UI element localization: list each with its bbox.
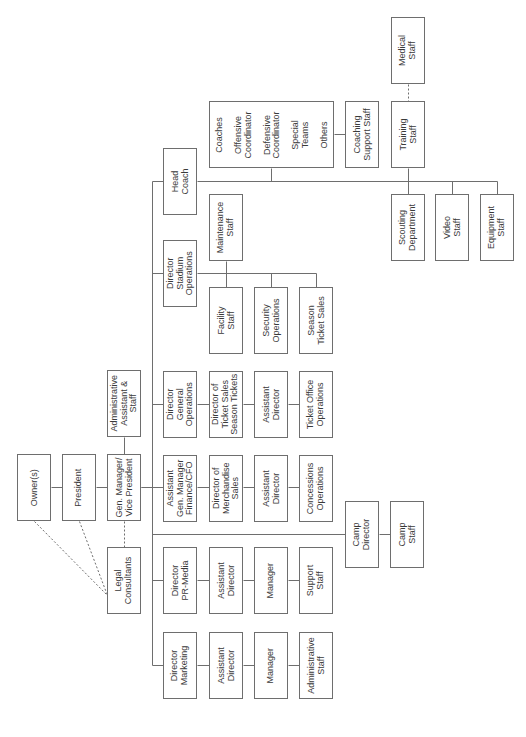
node-label: Facility Staff bbox=[216, 306, 235, 334]
node-label: Concessions Operations bbox=[307, 463, 326, 515]
org-chart-canvas: Owner(s)PresidentGen. Manager/ Vice Pres… bbox=[0, 0, 526, 737]
node-label: Ticket Office Operations bbox=[307, 380, 326, 430]
node-legal: Legal Consultants bbox=[107, 547, 141, 614]
node-asst-dir-merch: Assistant Director bbox=[254, 455, 288, 522]
node-label: Coaching Support Staff bbox=[353, 108, 372, 160]
node-label: Assistant Director bbox=[262, 470, 281, 507]
node-label: Administrative Assistant & Staff bbox=[110, 375, 139, 432]
node-asst-gm: Assistant Gen. Manager Finance/CFO bbox=[163, 455, 197, 522]
node-label: Season Ticket Sales bbox=[307, 296, 326, 345]
node-maintenance: Maintenance Staff bbox=[209, 194, 243, 261]
node-scouting: Scouting Department bbox=[391, 194, 425, 261]
node-admin-staff-marketing: Administrative Staff bbox=[299, 632, 333, 699]
node-label: Medical Staff bbox=[398, 35, 417, 66]
node-label: Owner(s) bbox=[29, 469, 39, 506]
node-label: Director Stadium Operations bbox=[166, 251, 195, 295]
node-dir-stadium: Director Stadium Operations bbox=[163, 240, 197, 307]
node-label: Security Operations bbox=[262, 298, 281, 342]
node-label: Video Staff bbox=[442, 216, 461, 239]
node-manager-marketing: Manager bbox=[254, 632, 288, 699]
node-admin: Administrative Assistant & Staff bbox=[107, 370, 141, 437]
node-label: Director of Ticket Sales Season Tickets bbox=[212, 374, 241, 435]
node-concessions: Concessions Operations bbox=[299, 455, 333, 522]
node-label: Head Coach bbox=[170, 168, 189, 194]
node-medical: Medical Staff bbox=[391, 17, 425, 84]
node-label: Assistant Director bbox=[217, 562, 236, 599]
node-dir-ticket-sales: Director of Ticket Sales Season Tickets bbox=[209, 371, 243, 438]
node-label: Director Marketing bbox=[171, 646, 190, 686]
node-support-staff: Support Staff bbox=[299, 547, 333, 614]
node-season-ticket-sales: Season Ticket Sales bbox=[299, 287, 333, 354]
node-facility: Facility Staff bbox=[209, 287, 243, 354]
node-label: Gen. Manager/ Vice President bbox=[115, 457, 134, 517]
node-label: Manager bbox=[266, 563, 276, 599]
node-label: President bbox=[74, 468, 84, 506]
node-head-coach: Head Coach bbox=[163, 148, 197, 215]
node-equipment: Equipment Staff bbox=[480, 194, 514, 261]
node-training: Training Staff bbox=[391, 101, 425, 168]
node-dir-merch: Director of Merchandise Sales bbox=[209, 455, 243, 522]
node-label: Director PR-Media bbox=[171, 560, 190, 600]
node-label: Training Staff bbox=[399, 118, 418, 150]
node-manager-pr: Manager bbox=[254, 547, 288, 614]
node-coaching-support: Coaching Support Staff bbox=[345, 101, 379, 168]
node-label: Director of Merchandise Sales bbox=[212, 463, 241, 515]
node-asst-dir-tickets: Assistant Director bbox=[254, 371, 288, 438]
dashed-connector bbox=[35, 522, 108, 596]
node-label: Coaches Offensive Coordinator Defensive … bbox=[215, 111, 329, 158]
node-asst-dir-pr: Assistant Director bbox=[209, 547, 243, 614]
node-label: Camp Director bbox=[352, 519, 371, 551]
node-camp-staff: Camp Staff bbox=[390, 501, 424, 568]
node-camp-director: Camp Director bbox=[345, 501, 379, 568]
node-label: Assistant Gen. Manager Finance/CFO bbox=[166, 460, 195, 518]
node-label: Assistant Director bbox=[262, 386, 281, 423]
node-label: Maintenance Staff bbox=[217, 202, 236, 254]
node-gm: Gen. Manager/ Vice President bbox=[107, 454, 141, 521]
node-ticket-office: Ticket Office Operations bbox=[299, 371, 333, 438]
node-label: Assistant Director bbox=[217, 647, 236, 684]
dashed-connector bbox=[80, 522, 108, 596]
node-label: Camp Staff bbox=[397, 522, 416, 546]
node-security: Security Operations bbox=[254, 287, 288, 354]
node-label: Support Staff bbox=[307, 565, 326, 597]
node-label: Manager bbox=[266, 648, 276, 684]
node-president: President bbox=[62, 454, 96, 521]
node-label: Administrative Staff bbox=[307, 637, 326, 694]
node-asst-dir-marketing: Assistant Director bbox=[209, 632, 243, 699]
node-owners: Owner(s) bbox=[17, 454, 51, 521]
node-dir-marketing: Director Marketing bbox=[163, 632, 197, 699]
node-label: Equipment Staff bbox=[488, 206, 507, 249]
node-dir-general-ops: Director General Operations bbox=[163, 371, 197, 438]
node-label: Director General Operations bbox=[166, 382, 195, 426]
node-dir-pr: Director PR-Media bbox=[163, 547, 197, 614]
node-label: Legal Consultants bbox=[115, 557, 134, 605]
node-video: Video Staff bbox=[435, 194, 469, 261]
node-coaches: Coaches Offensive Coordinator Defensive … bbox=[209, 101, 334, 168]
node-label: Scouting Department bbox=[399, 204, 418, 251]
